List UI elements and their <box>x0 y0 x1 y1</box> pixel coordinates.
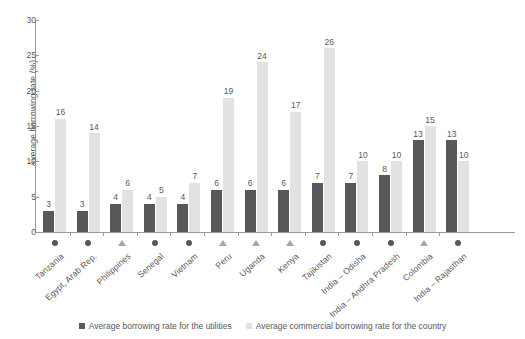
x-axis-tick-mark <box>271 232 272 236</box>
category-marker <box>420 240 428 246</box>
y-axis-tick-label: 5 <box>12 192 36 202</box>
y-axis-tick-label: 10 <box>12 156 36 166</box>
bar-group: 1310 <box>443 20 477 232</box>
bar-group: 726 <box>309 20 343 232</box>
bar-utility <box>245 190 256 232</box>
bar-value-label: 16 <box>49 108 73 117</box>
bar-group: 617 <box>275 20 309 232</box>
bar-utility <box>312 183 323 232</box>
category-marker <box>286 240 294 246</box>
bar-utility <box>77 211 88 232</box>
triangle-marker-icon <box>219 240 227 246</box>
category-marker <box>354 240 360 246</box>
bar-utility <box>211 190 222 232</box>
bar-utility <box>144 204 155 232</box>
bar-commercial <box>324 48 335 232</box>
bar-group: 316 <box>40 20 74 232</box>
bar-group: 1315 <box>410 20 444 232</box>
bar-value-label: 24 <box>250 52 274 61</box>
x-axis-label: Vietnam <box>169 251 199 280</box>
bar-group: 47 <box>174 20 208 232</box>
category-marker <box>219 240 227 246</box>
bar-group: 710 <box>342 20 376 232</box>
y-axis-tick-label: 25 <box>12 50 36 60</box>
x-axis-tick-mark <box>137 232 138 236</box>
y-axis-tick-mark <box>35 232 39 233</box>
bar-commercial <box>290 112 301 232</box>
x-axis-tick-mark <box>170 232 171 236</box>
circle-marker-icon <box>320 240 326 246</box>
bar-value-label: 26 <box>317 38 341 47</box>
category-marker <box>186 240 192 246</box>
x-axis-label: Senegal <box>136 251 166 280</box>
x-axis-tick-mark <box>439 232 440 236</box>
y-axis-tick-label: 15 <box>12 121 36 131</box>
x-axis-label: Philippines <box>94 251 132 287</box>
bar-value-label: 10 <box>351 151 375 160</box>
category-marker <box>388 240 394 246</box>
bar-utility <box>413 140 424 232</box>
bar-commercial <box>189 183 200 232</box>
x-axis-label: Kenya <box>275 251 300 275</box>
bar-commercial <box>89 133 100 232</box>
bar-utility <box>177 204 188 232</box>
circle-marker-icon <box>52 240 58 246</box>
triangle-marker-icon <box>286 240 294 246</box>
bar-value-label: 13 <box>440 130 464 139</box>
bar-value-label: 10 <box>452 151 476 160</box>
bar-commercial <box>257 62 268 232</box>
legend-item: Average commercial borrowing rate for th… <box>246 321 447 331</box>
legend-swatch <box>79 323 85 329</box>
bar-commercial <box>391 161 402 232</box>
bar-value-label: 6 <box>116 179 140 188</box>
bar-group: 624 <box>242 20 276 232</box>
category-marker <box>85 240 91 246</box>
bar-group: 810 <box>376 20 410 232</box>
bar-value-label: 10 <box>385 151 409 160</box>
bar-commercial <box>122 190 133 232</box>
category-marker <box>118 240 126 246</box>
triangle-marker-icon <box>252 240 260 246</box>
legend-item: Average borrowing rate for the utilities <box>79 321 232 331</box>
bar-commercial <box>458 161 469 232</box>
bar-group: 46 <box>107 20 141 232</box>
x-axis-tick-mark <box>238 232 239 236</box>
bar-group: 619 <box>208 20 242 232</box>
bar-group: 45 <box>141 20 175 232</box>
category-marker <box>320 240 326 246</box>
x-axis-tick-mark <box>338 232 339 236</box>
circle-marker-icon <box>354 240 360 246</box>
bar-utility <box>43 211 54 232</box>
x-axis-tick-mark <box>406 232 407 236</box>
bar-commercial <box>357 161 368 232</box>
x-axis-tick-mark <box>305 232 306 236</box>
x-axis-tick-mark <box>70 232 71 236</box>
bar-value-label: 5 <box>149 186 173 195</box>
x-axis-label: Colombia <box>401 251 435 283</box>
plot-area: 31631446454761962461772671081013151310 <box>36 20 514 232</box>
bar-value-label: 7 <box>183 172 207 181</box>
category-marker <box>455 240 461 246</box>
circle-marker-icon <box>85 240 91 246</box>
x-axis-tick-mark <box>103 232 104 236</box>
bar-value-label: 19 <box>217 87 241 96</box>
circle-marker-icon <box>186 240 192 246</box>
x-axis-tick-mark <box>372 232 373 236</box>
legend-label: Average borrowing rate for the utilities <box>89 321 232 331</box>
y-axis-tick-label: 0 <box>12 227 36 237</box>
circle-marker-icon <box>455 240 461 246</box>
bar-value-label: 15 <box>418 116 442 125</box>
circle-marker-icon <box>388 240 394 246</box>
legend-swatch <box>246 323 252 329</box>
bar-commercial <box>223 98 234 232</box>
bar-utility <box>278 190 289 232</box>
x-axis-label: Tanzania <box>33 251 66 282</box>
bar-commercial <box>55 119 66 232</box>
x-axis-tick-mark <box>204 232 205 236</box>
x-axis-label: Peru <box>213 251 233 271</box>
category-marker <box>152 240 158 246</box>
circle-marker-icon <box>152 240 158 246</box>
bar-utility <box>345 183 356 232</box>
bar-utility <box>379 175 390 232</box>
y-axis-tick-label: 20 <box>12 86 36 96</box>
